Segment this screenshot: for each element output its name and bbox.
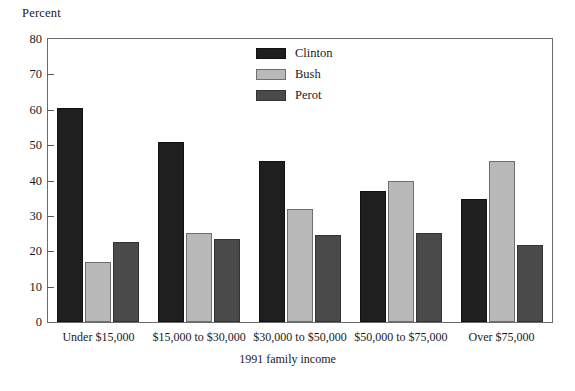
bar-group [57,39,139,322]
x-tick-label: Over $75,000 [469,330,535,345]
bar-bush-1 [186,233,212,322]
clinton-swatch [256,48,286,59]
perot-swatch [256,90,286,101]
bar-clinton-4 [461,199,487,322]
y-tick-label: 10 [2,279,42,294]
bar-chart: Percent 01020304050607080 ClintonBushPer… [0,0,575,391]
legend-label: Clinton [295,46,333,61]
y-tick-label: 40 [2,173,42,188]
bar-perot-2 [315,235,341,322]
y-tick-label: 30 [2,208,42,223]
chart-legend: ClintonBushPerot [256,45,333,108]
bar-group [461,39,543,322]
bar-clinton-0 [57,108,83,322]
legend-label: Bush [295,67,321,82]
bar-group [360,39,442,322]
bar-bush-3 [388,181,414,323]
bar-clinton-2 [259,161,285,322]
legend-item-perot: Perot [256,87,333,104]
legend-label: Perot [295,88,321,103]
bar-clinton-1 [158,142,184,322]
bar-perot-1 [214,239,240,322]
bar-bush-2 [287,209,313,322]
y-tick-label: 50 [2,138,42,153]
bar-clinton-3 [360,191,386,322]
legend-item-clinton: Clinton [256,45,333,62]
bar-group [158,39,240,322]
y-axis-title: Percent [22,6,61,21]
bush-swatch [256,69,286,80]
bar-perot-0 [113,242,139,322]
bar-bush-0 [85,262,111,322]
legend-item-bush: Bush [256,66,333,83]
x-axis-title: 1991 family income [0,352,575,367]
y-tick-label: 80 [2,32,42,47]
bar-bush-4 [489,161,515,322]
x-tick-label: $50,000 to $75,000 [354,330,447,345]
y-tick-label: 70 [2,67,42,82]
x-tick-label: $15,000 to $30,000 [153,330,246,345]
x-tick-label: $30,000 to $50,000 [253,330,346,345]
bar-perot-4 [517,245,543,322]
y-tick-label: 20 [2,244,42,259]
y-tick-label: 0 [2,315,42,330]
y-tick-label: 60 [2,102,42,117]
x-tick-label: Under $15,000 [62,330,134,345]
bar-perot-3 [416,233,442,322]
